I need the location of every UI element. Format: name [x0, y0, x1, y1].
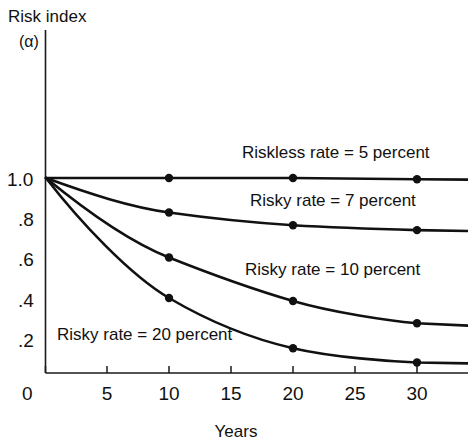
x-tick-label-10: 10: [158, 383, 179, 404]
x-tick-label-15: 15: [220, 383, 241, 404]
y-axis-title: Risk index: [8, 7, 87, 26]
y-axis-symbol: (α): [19, 33, 39, 50]
marker-s1-x30: [413, 226, 421, 234]
x-tick-label-20: 20: [282, 383, 303, 404]
y-tick-label-6: 0: [22, 383, 33, 404]
series-label-risky-10: Risky rate = 10 percent: [245, 260, 421, 279]
marker-s0-x30: [413, 175, 421, 183]
y-tick-label-2: .8: [18, 209, 34, 230]
marker-s2-x20: [289, 297, 297, 305]
marker-s3-x20: [289, 344, 297, 352]
series-label-risky-7: Risky rate = 7 percent: [250, 191, 416, 210]
x-tick-label-30: 30: [406, 383, 427, 404]
marker-s0-x10: [165, 174, 173, 182]
x-axis-ticks: [46, 366, 418, 373]
risk-index-chart-figure: Risk index (α) 1.0 .8 .6 .4 .2 0 5 10 15…: [0, 0, 468, 445]
series-label-risky-20: Risky rate = 20 percent: [57, 325, 233, 344]
y-tick-label-3: .6: [18, 249, 34, 270]
marker-s2-x10: [165, 253, 173, 261]
marker-s1-x20: [289, 221, 297, 229]
y-tick-label-5: .2: [18, 330, 34, 351]
marker-s3-x10: [165, 294, 173, 302]
marker-s0-x20: [289, 174, 297, 182]
y-tick-label-4: .4: [18, 290, 34, 311]
x-tick-label-25: 25: [344, 383, 365, 404]
x-tick-label-5: 5: [102, 383, 113, 404]
chart-canvas: Risk index (α) 1.0 .8 .6 .4 .2 0 5 10 15…: [0, 0, 468, 445]
marker-s1-x10: [165, 208, 173, 216]
series-curve-riskless-5: [46, 178, 468, 180]
y-tick-label-1: 1.0: [7, 169, 33, 190]
marker-s3-x30: [413, 358, 421, 366]
x-axis-title: Years: [215, 422, 258, 441]
marker-s2-x30: [413, 319, 421, 327]
series-label-riskless-5: Riskless rate = 5 percent: [242, 143, 430, 162]
